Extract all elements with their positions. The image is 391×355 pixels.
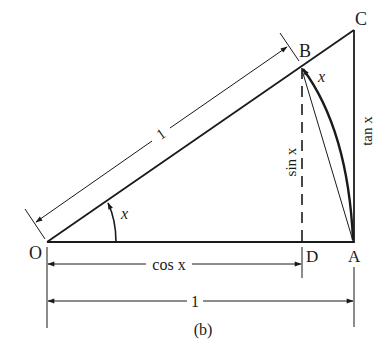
figure-caption: (b) (194, 321, 213, 339)
ext-tick-O (25, 209, 45, 239)
label-sin: sin x (283, 147, 299, 176)
angle-arc-x (108, 203, 116, 242)
label-point-A: A (348, 247, 361, 266)
label-angle-x: x (120, 205, 128, 222)
label-point-C: C (355, 9, 367, 29)
trig-diagram: 1 cos x 1 O A D B C x x sin x tan x (b) (0, 0, 391, 355)
label-base-length: 1 (191, 293, 199, 310)
ext-tick-B (280, 33, 299, 61)
line-OC (47, 30, 354, 242)
label-point-O: O (29, 243, 42, 263)
label-point-D: D (306, 247, 318, 266)
label-cos: cos x (152, 256, 185, 273)
label-tan: tan x (359, 116, 375, 146)
chord-BA (302, 70, 353, 241)
label-arc-x: x (317, 68, 325, 85)
label-point-B: B (299, 41, 311, 61)
label-hyp-length: 1 (153, 125, 168, 142)
